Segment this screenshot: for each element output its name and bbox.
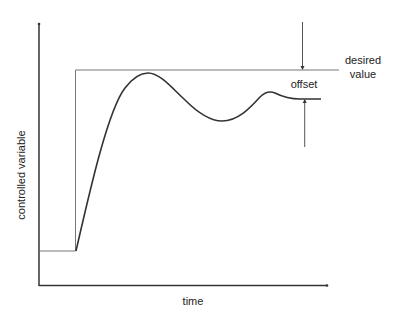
desired-value-label-line1: desired xyxy=(345,54,381,66)
y-axis-arrowhead xyxy=(38,23,41,26)
response-curve xyxy=(76,73,321,251)
offset-arrowhead-upper xyxy=(301,66,305,70)
x-axis-arrowhead xyxy=(326,284,329,287)
y-axis-label: controlled variable xyxy=(15,130,27,219)
desired-value-label-line2: value xyxy=(350,68,376,80)
setpoint-step-line xyxy=(39,70,339,251)
process-response-diagram: controlled variable time desired value o… xyxy=(0,0,394,320)
x-axis-label: time xyxy=(183,295,204,307)
offset-label: offset xyxy=(291,78,318,90)
